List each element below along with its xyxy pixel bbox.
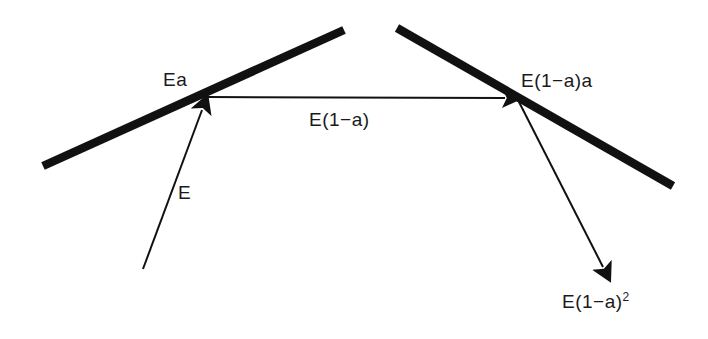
label-reflected-first: Ea [163, 70, 187, 89]
incident-ray-arrow [143, 110, 202, 269]
label-transmitted-second-base: E(1−a) [562, 291, 623, 312]
label-transmitted-first: E(1−a) [309, 110, 370, 129]
diagram-svg [0, 0, 708, 339]
label-transmitted-second-exponent: 2 [623, 290, 630, 304]
label-incident: E [178, 183, 191, 202]
label-transmitted-second: E(1−a)2 [562, 291, 629, 311]
right-surface-line [397, 28, 673, 186]
label-reflected-second: E(1−a)a [521, 71, 593, 90]
figure-canvas: Ea E E(1−a) E(1−a)a E(1−a)2 [0, 0, 708, 339]
horizontal-ray-arrow [207, 97, 505, 98]
